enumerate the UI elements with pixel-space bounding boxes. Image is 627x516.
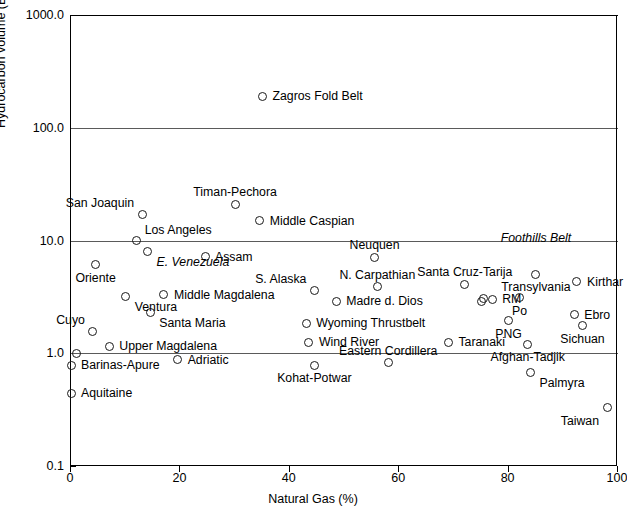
data-point-label: Eastern Cordillera <box>339 344 437 357</box>
x-tick-label: 80 <box>501 472 515 485</box>
data-marker <box>603 403 612 412</box>
data-marker <box>310 286 319 295</box>
data-marker <box>444 338 453 347</box>
x-tick-label: 40 <box>282 472 296 485</box>
x-tick-label: 100 <box>607 472 627 485</box>
x-tick-mark <box>70 466 71 472</box>
data-marker <box>143 247 152 256</box>
data-marker <box>477 297 486 306</box>
data-point-label: Kohat-Potwar <box>277 372 352 385</box>
data-marker <box>531 270 540 279</box>
data-marker <box>523 340 532 349</box>
data-marker <box>488 295 497 304</box>
data-point-label: Taiwan <box>561 414 599 427</box>
data-marker <box>132 236 141 245</box>
data-point-label: Middle Magdalena <box>174 288 275 301</box>
data-point-label: San Joaquin <box>66 196 134 209</box>
data-point-label: Assam <box>215 250 253 263</box>
data-marker <box>88 327 97 336</box>
data-marker <box>570 310 579 319</box>
data-marker <box>302 319 311 328</box>
x-tick-label: 20 <box>172 472 186 485</box>
plot-right-edge <box>616 15 617 466</box>
y-tick-label: 1000.0 <box>26 9 64 22</box>
data-point-label: Afghan-Tadjik <box>490 351 565 364</box>
x-axis-title: Natural Gas (%) <box>0 492 626 506</box>
data-point-label: Po <box>512 304 527 317</box>
data-marker <box>173 355 182 364</box>
chart-annotation: Foothills Belt <box>501 231 571 244</box>
data-point-label: Ventura <box>135 301 177 314</box>
data-marker <box>67 389 76 398</box>
data-point-label: Timan-Pechora <box>193 186 277 199</box>
data-point-label: Ebro <box>584 308 610 321</box>
data-point-label: Upper Magdalena <box>119 340 217 353</box>
y-tick-label: 100.0 <box>33 122 64 135</box>
data-point-label: Kirthar <box>587 275 623 288</box>
data-marker <box>159 290 168 299</box>
y-tick-label: 10.0 <box>40 235 64 248</box>
data-marker <box>310 361 319 370</box>
plot-area: Zagros Fold BeltSan JoaquinTiman-Pechora… <box>70 15 617 466</box>
data-marker <box>138 210 147 219</box>
x-tick-mark <box>508 466 509 472</box>
data-point-label: Taranaki <box>458 336 504 349</box>
data-marker <box>460 280 469 289</box>
data-point-label: S. Alaska <box>255 272 306 285</box>
data-marker <box>332 297 341 306</box>
data-point-label: Adriatic <box>188 353 229 366</box>
data-marker <box>504 316 513 325</box>
data-marker <box>526 368 535 377</box>
y-tick-label: 1.0 <box>47 347 64 360</box>
x-tick-label: 60 <box>391 472 405 485</box>
x-tick-label: 0 <box>67 472 74 485</box>
x-tick-mark <box>617 466 618 472</box>
data-point-label: Barinas-Apure <box>81 359 160 372</box>
data-marker <box>572 277 581 286</box>
data-point-label: Santa Cruz-Tarija <box>417 266 512 279</box>
data-marker <box>231 200 240 209</box>
data-point-label: Los Angeles <box>145 223 212 236</box>
data-point-label: N. Carpathian <box>339 268 415 281</box>
data-point-label: Middle Caspian <box>270 214 355 227</box>
data-marker <box>91 260 100 269</box>
data-marker <box>373 282 382 291</box>
x-tick-mark <box>398 466 399 472</box>
data-marker <box>255 216 264 225</box>
y-axis-title: Hydrocarbon volume (BBOE) <box>0 0 8 128</box>
data-point-label: Palmyra <box>539 377 584 390</box>
data-point-label: Zagros Fold Belt <box>272 90 362 103</box>
data-marker <box>67 361 76 370</box>
data-marker <box>384 358 393 367</box>
data-point-label: Sichuan <box>560 332 604 345</box>
x-tick-mark <box>289 466 290 472</box>
data-point-label: Neuquen <box>350 239 400 252</box>
data-marker <box>370 253 379 262</box>
x-tick-mark <box>179 466 180 472</box>
data-point-label: Aquitaine <box>81 387 132 400</box>
data-marker <box>121 292 130 301</box>
data-point-label: Wyoming Thrustbelt <box>316 317 425 330</box>
data-marker <box>304 338 313 347</box>
data-marker <box>105 342 114 351</box>
data-point-label: Santa Maria <box>159 317 225 330</box>
gridline-1000.0 <box>71 15 618 16</box>
data-point-label: Oriente <box>75 271 115 284</box>
y-tick-label: 0.1 <box>47 460 64 473</box>
data-marker <box>258 92 267 101</box>
data-marker <box>578 321 587 330</box>
data-point-label: Madre d. Dios <box>346 295 423 308</box>
gridline-100.0 <box>71 128 618 129</box>
data-point-label: Cuyo <box>56 313 85 326</box>
data-marker <box>72 349 81 358</box>
